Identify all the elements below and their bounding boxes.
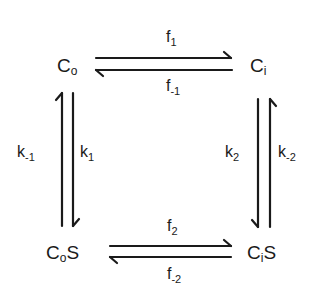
arrow-f2-forward	[110, 240, 231, 246]
node-cos-main: C	[46, 242, 60, 263]
rate-k-1-sub: -1	[25, 151, 35, 163]
node-co: Co	[57, 56, 77, 77]
rate-k-2-main: k	[278, 143, 286, 160]
rate-f-1-sub: -1	[170, 85, 180, 97]
rate-f1-sub: 1	[170, 36, 176, 48]
arrow-f-2-reverse	[110, 257, 231, 263]
rate-k-2: k-2	[278, 144, 296, 163]
node-cos: CoS	[46, 243, 79, 264]
rate-k-1: k-1	[17, 144, 35, 163]
arrow-k1-forward	[73, 93, 79, 226]
rate-k1: k1	[80, 144, 94, 163]
node-cis-suffix: S	[263, 242, 276, 263]
node-ci: Ci	[250, 56, 266, 77]
rate-k1-sub: 1	[88, 151, 94, 163]
rate-k1-main: k	[80, 143, 88, 160]
rate-k2: k2	[225, 144, 239, 163]
arrow-k2-forward	[252, 99, 258, 227]
rate-f-1: f-1	[166, 78, 180, 97]
rate-f-2: f-2	[167, 266, 181, 285]
arrow-f-1-reverse	[96, 70, 232, 76]
rate-f2: f2	[167, 218, 178, 237]
rate-k-2-sub: -2	[286, 151, 296, 163]
node-co-main: C	[57, 55, 71, 76]
rate-f1: f1	[166, 29, 177, 48]
node-co-sub: o	[71, 64, 78, 78]
node-cis-main: C	[247, 242, 261, 263]
rate-k-1-main: k	[17, 143, 25, 160]
rate-k2-main: k	[225, 143, 233, 160]
arrow-k-2-reverse	[270, 99, 276, 227]
rate-k2-sub: 2	[233, 151, 239, 163]
rate-f2-sub: 2	[171, 225, 177, 237]
node-cos-suffix: S	[66, 242, 79, 263]
node-ci-main: C	[250, 55, 264, 76]
arrow-f1-forward	[96, 52, 231, 58]
node-cis: CiS	[247, 243, 276, 264]
node-ci-sub: i	[264, 64, 267, 78]
arrow-k-1-reverse	[56, 93, 62, 226]
rate-f-2-sub: -2	[171, 273, 181, 285]
